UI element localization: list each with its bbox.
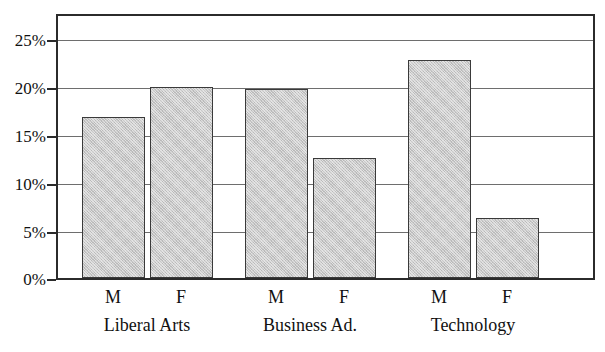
bar-liberal-arts-f [150, 87, 213, 278]
y-axis-label-25: 25% [15, 32, 46, 49]
gridline-25 [58, 40, 593, 41]
bar-chart: 25% 20% 15% 10% 5% 0% M F M F M F Libera… [0, 0, 605, 352]
x-label-technology-f: F [477, 288, 537, 306]
group-label-business-ad: Business Ad. [240, 316, 380, 334]
x-label-business-ad-f: F [314, 288, 374, 306]
x-label-liberal-arts-f: F [151, 288, 211, 306]
y-tick-25 [47, 40, 56, 42]
group-label-technology: Technology [403, 316, 543, 334]
y-tick-20 [47, 88, 56, 90]
y-tick-0 [47, 279, 56, 281]
plot-frame [56, 14, 595, 280]
x-label-technology-m: M [409, 288, 469, 306]
chart-title-cropped [0, 0, 605, 7]
gridline-20 [58, 88, 593, 89]
y-axis-label-20: 20% [15, 80, 46, 97]
y-axis-label-0: 0% [23, 271, 46, 288]
x-label-liberal-arts-m: M [83, 288, 143, 306]
bar-business-ad-f [313, 158, 376, 278]
y-axis-label-15: 15% [15, 128, 46, 145]
bar-liberal-arts-m [82, 117, 145, 278]
y-axis-label-10: 10% [15, 176, 46, 193]
y-tick-10 [47, 184, 56, 186]
y-tick-5 [47, 232, 56, 234]
y-tick-15 [47, 136, 56, 138]
group-label-liberal-arts: Liberal Arts [77, 316, 217, 334]
bar-technology-m [408, 60, 471, 278]
bar-business-ad-m [245, 89, 308, 278]
y-axis-label-5: 5% [23, 224, 46, 241]
plot-area [58, 16, 593, 278]
x-label-business-ad-m: M [246, 288, 306, 306]
bar-technology-f [476, 218, 539, 278]
